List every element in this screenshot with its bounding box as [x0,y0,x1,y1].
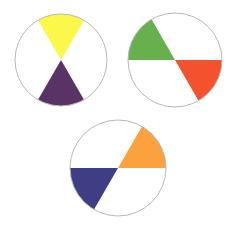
sector-yellow [38,14,84,60]
wheel-yellow-violet [15,14,107,106]
sector-red [175,60,222,101]
wheel-blue-orange [70,120,166,216]
sector-green [128,19,175,60]
wheel-green-red [128,13,222,107]
sector-orange [118,126,166,168]
sector-violet [38,60,84,106]
color-wheels-diagram [0,0,241,233]
sector-blue [70,168,118,210]
